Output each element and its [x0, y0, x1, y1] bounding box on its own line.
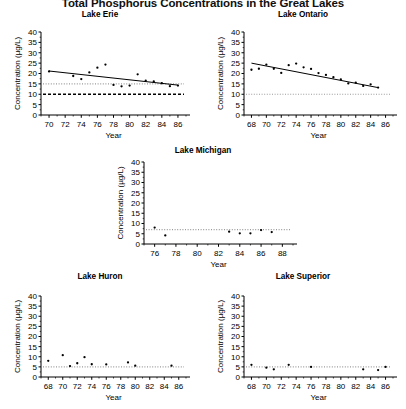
y-tick-label: 25	[28, 59, 37, 68]
data-point	[288, 364, 290, 366]
x-tick-label: 70	[262, 382, 271, 391]
y-tick-label: 5	[236, 101, 241, 110]
data-point	[80, 78, 82, 80]
x-tick-label: 86	[173, 120, 182, 129]
data-point	[362, 368, 364, 370]
data-point	[250, 69, 252, 71]
y-tick-label: 25	[28, 322, 37, 331]
panel-lake-ontario: Lake Ontario 051015202530354068707274767…	[203, 10, 403, 145]
x-tick-label: 70	[45, 120, 54, 129]
y-axis-label: Concentration (µg/L)	[13, 37, 22, 110]
y-tick-label: 15	[28, 80, 37, 89]
data-point	[288, 64, 290, 66]
y-tick-label: 35	[28, 38, 37, 47]
x-axis-label: Year	[310, 393, 327, 402]
x-tick-label: 86	[257, 249, 266, 258]
y-tick-label: 10	[231, 90, 240, 99]
y-tick-label: 30	[131, 178, 140, 187]
y-tick-label: 30	[28, 49, 37, 58]
y-tick-label: 0	[136, 240, 141, 249]
x-tick-label: 86	[381, 382, 390, 391]
x-tick-label: 88	[278, 249, 287, 258]
x-tick-label: 82	[145, 382, 154, 391]
data-point	[258, 68, 260, 70]
data-point	[355, 81, 357, 83]
data-point	[164, 234, 166, 236]
x-axis-label: Year	[105, 131, 122, 140]
x-tick-label: 86	[174, 382, 183, 391]
data-point	[112, 84, 114, 86]
y-tick-label: 0	[33, 373, 38, 382]
plot-area-lake-michigan: 051015202530354076788082848688Concentrat…	[103, 146, 303, 271]
y-axis-label: Concentration (µg/L)	[116, 166, 125, 239]
data-point	[120, 85, 122, 87]
data-point	[134, 365, 136, 367]
panel-lake-superior: Lake Superior 05101520253035406870727476…	[203, 272, 403, 409]
x-axis-label: Year	[310, 131, 327, 140]
y-tick-label: 20	[28, 69, 37, 78]
data-point	[265, 63, 267, 65]
y-tick-label: 5	[33, 363, 38, 372]
x-tick-label: 76	[150, 249, 159, 258]
y-tick-label: 25	[231, 322, 240, 331]
y-tick-label: 5	[236, 363, 241, 372]
x-tick-label: 84	[366, 120, 375, 129]
data-point	[280, 72, 282, 74]
figure-root: Total Phosphorus Concentrations in the G…	[0, 0, 406, 409]
data-point	[88, 71, 90, 73]
data-point	[332, 76, 334, 78]
data-point	[153, 226, 155, 228]
data-point	[47, 360, 49, 362]
data-point	[69, 365, 71, 367]
y-tick-label: 30	[28, 312, 37, 321]
y-tick-label: 0	[33, 111, 38, 120]
y-axis-label: Concentration (µg/L)	[216, 300, 225, 373]
y-tick-label: 0	[236, 373, 241, 382]
y-tick-label: 10	[231, 353, 240, 362]
y-tick-label: 0	[236, 111, 241, 120]
y-tick-label: 5	[136, 230, 141, 239]
x-tick-label: 72	[61, 120, 70, 129]
data-point	[362, 85, 364, 87]
x-tick-label: 70	[58, 382, 67, 391]
y-tick-label: 30	[231, 49, 240, 58]
y-tick-label: 15	[231, 343, 240, 352]
x-tick-label: 76	[93, 120, 102, 129]
y-tick-label: 15	[231, 80, 240, 89]
data-point	[170, 365, 172, 367]
panel-lake-michigan: Lake Michigan 05101520253035407678808284…	[103, 146, 303, 271]
panel-lake-erie: Lake Erie 051015202530354070727476788082…	[0, 10, 200, 145]
data-point	[249, 232, 251, 234]
data-point	[153, 80, 155, 82]
plot-area-lake-erie: 0510152025303540707274767880828486Concen…	[0, 10, 200, 145]
x-tick-label: 78	[321, 120, 330, 129]
data-point	[340, 78, 342, 80]
y-axis-label: Concentration (µg/L)	[216, 37, 225, 110]
data-point	[310, 68, 312, 70]
x-axis-label: Year	[210, 260, 227, 269]
x-tick-label: 80	[193, 249, 202, 258]
data-point	[96, 67, 98, 69]
data-point	[169, 85, 171, 87]
x-tick-label: 84	[235, 249, 244, 258]
y-tick-label: 40	[231, 28, 240, 37]
x-tick-label: 74	[292, 382, 301, 391]
x-tick-label: 80	[131, 382, 140, 391]
x-tick-label: 80	[336, 382, 345, 391]
x-tick-label: 78	[171, 249, 180, 258]
data-point	[302, 66, 304, 68]
x-tick-label: 72	[73, 382, 82, 391]
x-tick-label: 80	[336, 120, 345, 129]
y-tick-label: 35	[231, 38, 240, 47]
y-tick-label: 5	[33, 101, 38, 110]
panel-lake-huron: Lake Huron 05101520253035406870727476788…	[0, 272, 200, 409]
x-tick-label: 68	[44, 382, 53, 391]
x-tick-label: 82	[351, 120, 360, 129]
x-tick-label: 82	[351, 382, 360, 391]
x-tick-label: 72	[277, 382, 286, 391]
data-point	[260, 229, 262, 231]
y-tick-label: 40	[131, 158, 140, 167]
x-tick-label: 84	[157, 120, 166, 129]
data-point	[250, 364, 252, 366]
plot-area-lake-ontario: 051015202530354068707274767880828486Conc…	[203, 10, 403, 145]
